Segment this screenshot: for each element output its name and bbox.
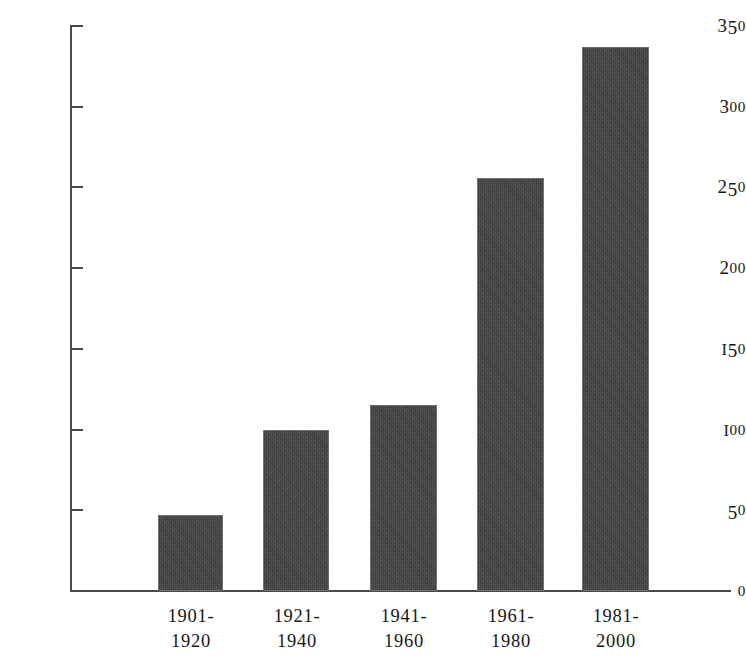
bar-1901-1920 — [158, 515, 223, 591]
x-label-1901-1920: 1901- 1920 — [145, 604, 237, 654]
bar-1981-2000 — [582, 47, 649, 591]
x-label-1981-2000: 1981- 2000 — [570, 604, 662, 654]
x-label-1941-1960: 1941- 1960 — [358, 604, 450, 654]
bars-layer — [0, 0, 746, 669]
bar-chart: 350 300 250 200 I50 I00 50 0 1901- 1920 … — [0, 0, 746, 669]
bar-1961-1980 — [477, 178, 544, 591]
x-label-1921-1940: 1921- 1940 — [251, 604, 343, 654]
bar-1921-1940 — [263, 430, 329, 591]
bar-1941-1960 — [370, 405, 437, 591]
x-label-1961-1980: 1961- 1980 — [465, 604, 557, 654]
